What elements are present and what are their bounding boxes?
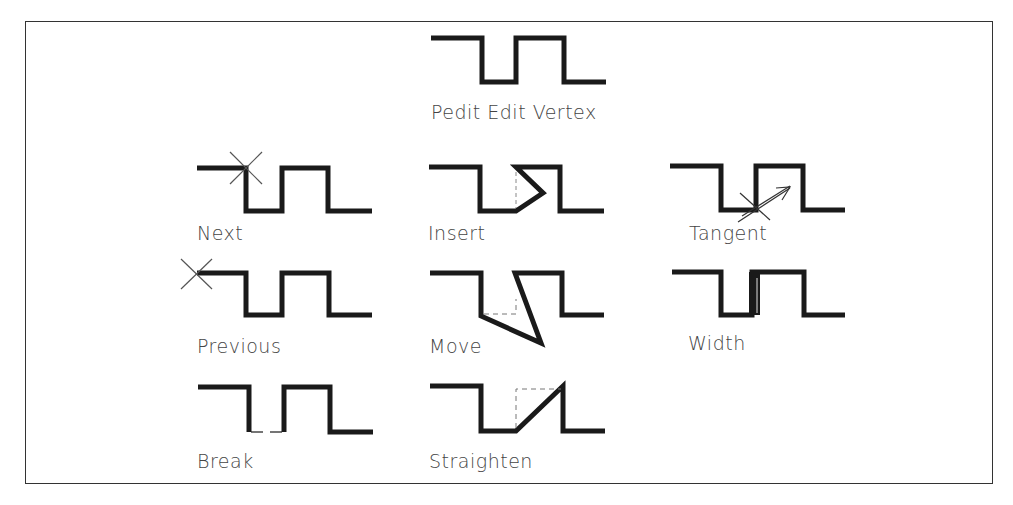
diagram-canvas xyxy=(0,0,1013,505)
tangent-polyline-icon xyxy=(670,166,845,222)
insert-label: Insert xyxy=(428,224,486,243)
move-label: Move xyxy=(429,337,482,356)
tangent-label: Tangent xyxy=(689,224,767,243)
next-polyline-icon xyxy=(197,152,372,211)
base-polyline-icon xyxy=(431,38,606,82)
insert-polyline-icon xyxy=(429,167,604,211)
break-polyline-icon xyxy=(198,387,373,432)
previous-label: Previous xyxy=(197,337,281,356)
title-label: Pedit Edit Vertex xyxy=(431,103,597,122)
width-polyline-icon xyxy=(672,272,845,315)
width-label: Width xyxy=(688,334,746,353)
previous-polyline-icon xyxy=(181,259,372,315)
break-label: Break xyxy=(197,452,254,471)
next-label: Next xyxy=(197,224,243,243)
straighten-label: Straighten xyxy=(429,452,533,471)
straighten-polyline-icon xyxy=(430,386,605,431)
move-polyline-icon xyxy=(430,273,604,343)
